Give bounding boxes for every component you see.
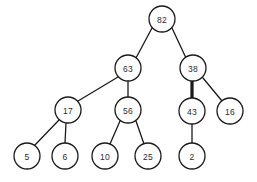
node-label-56: 56 [123,106,133,116]
tree-node-25[interactable]: 25 [135,143,161,169]
node-label-25: 25 [143,152,153,162]
node-label-38: 38 [188,64,198,74]
tree-edge-56-to-25 [136,121,144,144]
tree-node-63[interactable]: 63 [115,55,141,81]
node-label-43: 43 [187,107,197,117]
tree-edge-56-to-10 [110,121,120,144]
tree-edge-17-to-5 [34,120,59,146]
node-label-10: 10 [100,152,110,162]
node-label-16: 16 [225,107,235,117]
tree-edge-82-to-63 [136,28,152,58]
tree-node-5[interactable]: 5 [14,143,40,169]
tree-node-43[interactable]: 43 [179,98,205,124]
tree-node-56[interactable]: 56 [115,97,141,123]
tree-edge-38-to-16 [203,78,222,101]
node-label-17: 17 [63,106,73,116]
node-label-5: 5 [25,152,30,162]
tree-node-17[interactable]: 17 [55,97,81,123]
tree-canvas: 826338175643165610252 [0,0,257,182]
tree-edge-82-to-38 [172,28,186,58]
tree-node-82[interactable]: 82 [149,6,175,32]
binary-tree-diagram: 826338175643165610252 [0,0,257,182]
node-label-2: 2 [190,152,195,162]
tree-edges-group [34,28,222,146]
tree-edge-17-to-6 [65,123,66,143]
tree-edge-63-to-17 [78,77,118,101]
node-label-82: 82 [157,15,167,25]
tree-node-38[interactable]: 38 [180,55,206,81]
node-label-63: 63 [123,64,133,74]
tree-node-16[interactable]: 16 [217,98,243,124]
tree-node-6[interactable]: 6 [52,143,78,169]
tree-node-10[interactable]: 10 [92,143,118,169]
tree-node-2[interactable]: 2 [179,143,205,169]
node-label-6: 6 [63,152,68,162]
